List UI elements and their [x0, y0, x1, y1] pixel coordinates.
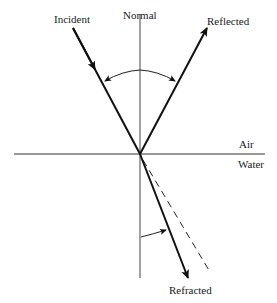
- incident-ray: [73, 28, 140, 154]
- angle-arc-refraction: [141, 230, 166, 237]
- label-incident: Incident: [54, 14, 90, 25]
- label-air: Air: [239, 139, 254, 150]
- label-normal: Normal: [123, 10, 157, 21]
- refracted-ray: [140, 154, 188, 278]
- label-refracted: Refracted: [169, 285, 212, 296]
- ray-diagram: [0, 0, 277, 303]
- label-water: Water: [238, 159, 264, 170]
- undeviated-extension-dashed: [143, 160, 210, 272]
- angle-arc-incidence-reflection: [105, 70, 140, 81]
- label-reflected: Reflected: [207, 16, 249, 27]
- angle-arc-reflection: [140, 70, 175, 81]
- reflected-ray: [140, 28, 207, 154]
